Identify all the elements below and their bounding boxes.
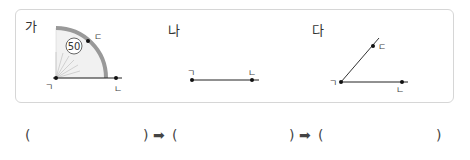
svg-text:ㄴ: ㄴ [396,85,404,95]
svg-text:ㄴ: ㄴ [114,84,122,94]
arrow-icon: ➡ [153,127,165,143]
svg-text:ㄴ: ㄴ [248,68,256,78]
svg-text:ㄷ: ㄷ [378,42,386,52]
svg-text:ㄱ: ㄱ [329,78,337,88]
answer-close-2: ) [289,127,294,143]
svg-text:ㄱ: ㄱ [45,82,53,92]
protractor-reading: 50 [68,41,81,52]
answer-close-3: ) [436,127,441,143]
svg-text:ㄱ: ㄱ [187,68,195,78]
answer-close-1: ) [143,127,148,143]
answer-open-1: ( [25,127,30,143]
answer-open-3: ( [318,127,323,143]
figures-drawing: 50 ㄱ ㄴ ㄷ ㄱ ㄴ ㄱ ㄴ ㄷ [0,0,470,110]
arrow-icon: ➡ [299,127,311,143]
answer-open-2: ( [172,127,177,143]
svg-text:ㄷ: ㄷ [94,32,102,42]
